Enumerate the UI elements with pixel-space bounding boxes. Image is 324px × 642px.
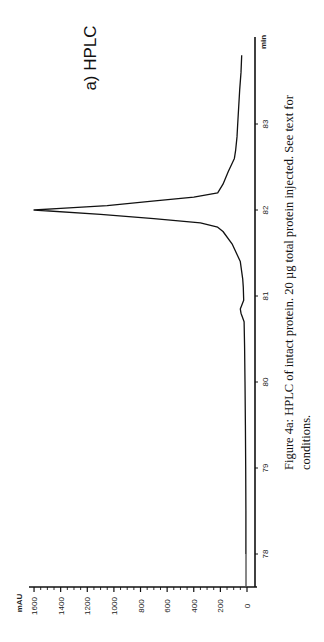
absorbance-tick-label: 1000 bbox=[110, 597, 119, 615]
absorbance-tick-label: 1200 bbox=[83, 597, 92, 615]
time-unit-label: min bbox=[259, 35, 268, 49]
absorbance-tick-label: 200 bbox=[216, 599, 225, 613]
time-tick-label: 78 bbox=[261, 549, 270, 558]
time-tick-label: 83 bbox=[261, 119, 270, 128]
absorbance-tick-label: 1400 bbox=[57, 597, 66, 615]
absorbance-unit-label: mAU bbox=[15, 593, 24, 612]
hplc-chart: 787980818283 min 02004006008001000120014… bbox=[0, 0, 324, 642]
figure-caption-line2: conditions. bbox=[299, 415, 313, 470]
hplc-trace-line bbox=[34, 55, 246, 554]
time-tick-label: 80 bbox=[261, 377, 270, 386]
time-axis-ticks: 787980818283 bbox=[255, 119, 270, 558]
time-tick-label: 81 bbox=[261, 291, 270, 300]
time-tick-label: 82 bbox=[261, 205, 270, 214]
absorbance-tick-label: 800 bbox=[137, 599, 146, 613]
panel-title: a) HPLC bbox=[81, 25, 100, 90]
absorbance-axis-ticks: 02004006008001000120014001600 bbox=[30, 587, 252, 615]
absorbance-tick-label: 400 bbox=[190, 599, 199, 613]
absorbance-tick-label: 1600 bbox=[30, 597, 39, 615]
figure-caption-line1: Figure 4a: HPLC of intact protein. 20 µg… bbox=[282, 94, 296, 470]
time-tick-label: 79 bbox=[261, 463, 270, 472]
absorbance-tick-label: 600 bbox=[163, 599, 172, 613]
absorbance-tick-label: 0 bbox=[243, 603, 252, 608]
